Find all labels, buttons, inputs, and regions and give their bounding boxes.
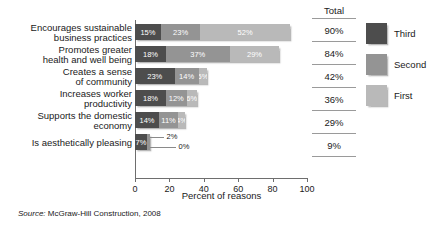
stacked-bar[interactable]: 7%	[135, 134, 150, 150]
category-label: Is aesthetically pleasing	[8, 132, 132, 154]
category-label: Creates a sense of community	[8, 66, 132, 88]
stacked-bar[interactable]: 18%37%29%	[135, 46, 279, 62]
x-axis-tick	[273, 178, 274, 182]
bar-segment-third[interactable]: 15%	[135, 24, 161, 40]
total-value: 84%	[312, 41, 356, 64]
bar-segment-second[interactable]: 12%	[166, 90, 187, 106]
category-label: Promotes greater health and well being	[8, 44, 132, 66]
x-axis-tick	[238, 178, 239, 182]
chart-figure: Encourages sustainable business practice…	[0, 0, 439, 230]
category-label: Increases worker productivity	[8, 88, 132, 110]
source-note: Source: McGraw-Hill Construction, 2008	[18, 209, 161, 218]
bar-segment-third[interactable]: 18%	[135, 90, 166, 106]
x-axis-tick	[135, 178, 136, 182]
legend-swatch-second	[366, 54, 387, 75]
total-value: 9%	[312, 133, 356, 157]
legend-item-second: Second	[366, 53, 426, 75]
stacked-bar[interactable]: 14%11%4%	[135, 112, 185, 128]
callout-leader-line	[150, 147, 176, 148]
total-value: 90%	[312, 18, 356, 41]
bar-segment-second[interactable]: 14%	[175, 68, 199, 84]
stacked-bar[interactable]: 18%12%6%	[135, 90, 197, 106]
bar-segment-first[interactable]: 6%	[187, 90, 197, 106]
callout-label: 0%	[178, 142, 189, 151]
stacked-bar[interactable]: 23%14%5%	[135, 68, 207, 84]
x-axis-line	[135, 178, 308, 179]
callout-leader-line	[150, 137, 164, 138]
bar-segment-third[interactable]: 14%	[135, 112, 159, 128]
bar-segment-first[interactable]: 5%	[199, 68, 208, 84]
legend-label-second: Second	[394, 59, 426, 70]
bar-segment-second[interactable]: 23%	[161, 24, 201, 40]
stacked-bar[interactable]: 15%23%52%	[135, 24, 290, 40]
bar-segment-first[interactable]: 29%	[230, 46, 280, 62]
legend-swatch-third	[366, 23, 387, 44]
total-value: 29%	[312, 110, 356, 133]
legend-item-third: Third	[366, 22, 426, 44]
bar-segment-third[interactable]: 23%	[135, 68, 175, 84]
total-column-header: Total	[312, 3, 356, 18]
total-value: 42%	[312, 64, 356, 87]
bar-segment-first[interactable]: 4%	[178, 112, 185, 128]
legend-label-third: Third	[394, 28, 416, 39]
bar-segment-second[interactable]: 37%	[166, 46, 230, 62]
x-axis-tick	[169, 178, 170, 182]
legend-item-first: First	[366, 84, 426, 106]
category-label-line: of community	[63, 77, 132, 88]
category-label-line: business practices	[31, 33, 132, 44]
category-label-line: health and well being	[43, 55, 132, 66]
legend-label-first: First	[394, 90, 412, 101]
x-axis-title: Percent of reasons	[135, 190, 308, 201]
total-value: 36%	[312, 87, 356, 110]
total-column: Total 90%84%42%36%29%9%	[312, 3, 356, 157]
category-label-line: productivity	[60, 99, 132, 110]
legend: Third Second First	[366, 22, 426, 115]
category-label-line: Is aesthetically pleasing	[32, 138, 132, 149]
plot-area: 020406080100 15%23%52%18%37%29%23%14%5%1…	[135, 20, 307, 178]
bar-segment-third[interactable]: 7%	[135, 134, 147, 150]
x-axis-tick	[307, 178, 308, 182]
bar-segment-second[interactable]: 11%	[159, 112, 178, 128]
source-text: McGraw-Hill Construction, 2008	[48, 209, 161, 218]
bar-segment-third[interactable]: 18%	[135, 46, 166, 62]
x-axis-tick	[204, 178, 205, 182]
category-axis-labels: Encourages sustainable business practice…	[8, 22, 132, 154]
callout-label: 2%	[166, 132, 177, 141]
category-label-line: economy	[37, 121, 132, 132]
bar-segment-first[interactable]: 52%	[200, 24, 289, 40]
source-prefix: Source:	[18, 209, 46, 218]
category-label: Encourages sustainable business practice…	[8, 22, 132, 44]
category-label: Supports the domestic economy	[8, 110, 132, 132]
legend-swatch-first	[366, 85, 387, 106]
